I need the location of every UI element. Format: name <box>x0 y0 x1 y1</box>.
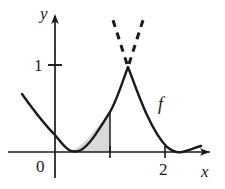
y-tick-label-one: 1 <box>34 57 43 74</box>
function-curve-f <box>22 67 201 152</box>
left-tangent-dashed-ray <box>112 17 127 64</box>
x-tick-label-two: 2 <box>159 161 168 178</box>
curve-label-f: f <box>158 95 163 113</box>
shaded-area-under-curve <box>67 112 110 152</box>
y-axis-label: y <box>40 5 48 22</box>
origin-label: 0 <box>36 158 45 175</box>
function-graph-figure: y x 1 0 2 f <box>0 0 225 189</box>
right-tangent-dashed-ray <box>129 17 144 64</box>
x-axis-label: x <box>201 163 209 180</box>
graph-canvas <box>0 0 225 189</box>
